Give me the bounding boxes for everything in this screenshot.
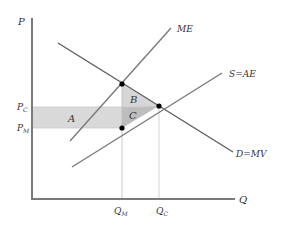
pm-label: PM bbox=[16, 123, 30, 134]
region-b-label: B bbox=[129, 94, 137, 105]
demand-curve-label: D=MV bbox=[235, 149, 268, 159]
y-axis-label: P bbox=[17, 16, 25, 27]
monopsony-price-point bbox=[119, 125, 124, 130]
supply-curve-label: S=AE bbox=[229, 69, 256, 79]
me-demand-intersection-point bbox=[119, 81, 124, 86]
x-axis-label: Q bbox=[239, 194, 247, 205]
competitive-equilibrium-point bbox=[156, 103, 161, 108]
monopsony-diagram: P Q ME S=AE D=MV PC PM QM QC A B C bbox=[0, 0, 287, 229]
region-a-label: A bbox=[67, 113, 75, 124]
demand-curve bbox=[58, 43, 233, 152]
region-a-area bbox=[33, 107, 122, 128]
pc-label: PC bbox=[16, 102, 28, 113]
qm-label: QM bbox=[114, 206, 128, 217]
region-c-label: C bbox=[129, 110, 137, 121]
me-curve-label: ME bbox=[176, 24, 193, 34]
region-b-area bbox=[122, 84, 159, 107]
qc-label: QC bbox=[156, 206, 168, 217]
